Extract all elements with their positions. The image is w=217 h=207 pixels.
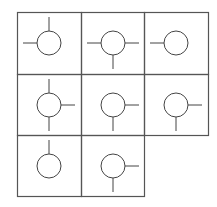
node-circle-icon <box>37 31 61 55</box>
grid-cell <box>18 13 82 75</box>
node-circle-icon <box>101 154 125 178</box>
grid-cell <box>145 13 209 75</box>
connector-symbol-grid <box>0 0 217 207</box>
grid-cell <box>82 75 145 136</box>
node-circle-icon <box>37 154 61 178</box>
node-circle-icon <box>164 31 188 55</box>
grid-cell <box>145 75 209 136</box>
grid-cell <box>82 13 145 75</box>
grid-cell <box>18 75 82 136</box>
grid-cell <box>82 136 145 197</box>
node-circle-icon <box>101 93 125 117</box>
grid-cell <box>18 136 82 197</box>
node-circle-icon <box>101 31 125 55</box>
node-circle-icon <box>37 93 61 117</box>
diagram-canvas <box>0 0 217 207</box>
node-circle-icon <box>164 93 188 117</box>
